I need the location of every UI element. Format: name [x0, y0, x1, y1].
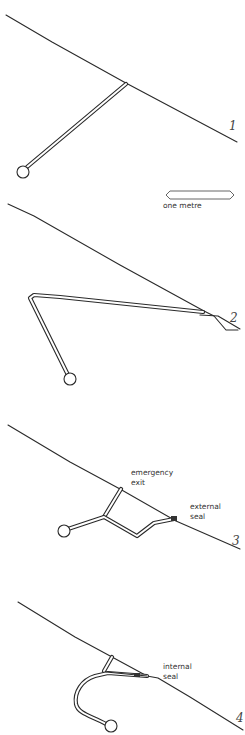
burrow-chamber-4: [105, 720, 117, 732]
scale-bar-shape: [166, 191, 234, 199]
figure-1: 1: [6, 15, 237, 178]
label-external: external: [190, 502, 221, 511]
label-internal: internal: [163, 662, 192, 671]
scale-bar: one metre: [163, 191, 234, 210]
burrow-chamber-3: [58, 525, 70, 537]
figure-number-1: 1: [229, 119, 237, 133]
figure-number-3: 3: [232, 534, 240, 548]
figure-4: internal seal 4: [18, 602, 244, 732]
ground-surface-1: [6, 15, 237, 142]
burrow-chamber-2: [64, 373, 76, 385]
figure-number-4: 4: [235, 711, 244, 725]
ground-surface-4: [18, 602, 112, 657]
figure-2: 2: [8, 204, 240, 385]
external-seal: [171, 516, 177, 521]
internal-seal: [134, 673, 140, 677]
figure-3: emergency exit external seal 3: [8, 425, 240, 549]
burrow-tunnel-2: [30, 295, 203, 375]
burrow-chamber-1: [17, 166, 29, 178]
label-exit: exit: [131, 478, 145, 487]
label-seal: seal: [190, 512, 205, 521]
figure-number-2: 2: [229, 311, 238, 325]
scale-bar-label: one metre: [163, 201, 202, 210]
burrow-diagrams: 1 one metre 2 emergency exit external se…: [0, 0, 245, 735]
label-emergency: emergency: [131, 468, 174, 477]
label-seal-4: seal: [163, 672, 178, 681]
